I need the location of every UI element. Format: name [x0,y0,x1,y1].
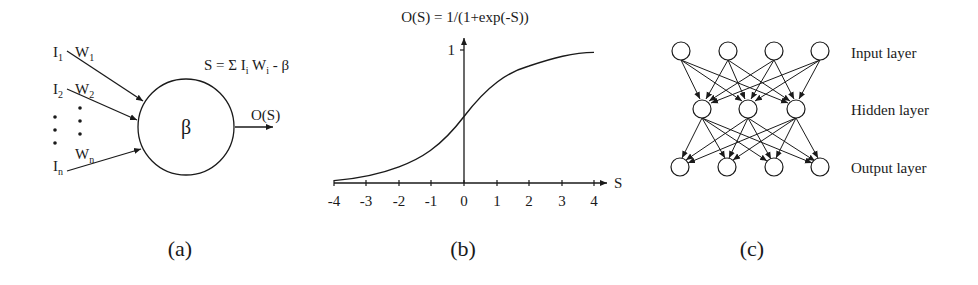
caption-b: (b) [450,236,476,261]
input-node [765,42,783,60]
x-axis-label: S [614,175,622,191]
svg-text:3: 3 [558,193,566,209]
input-node [811,42,829,60]
svg-text:2: 2 [525,193,533,209]
weight-label-n: Wn [75,146,94,165]
output-label: O(S) [251,107,280,124]
input-label-n: In [53,158,63,177]
output-node [811,158,829,176]
svg-text:-2: -2 [393,193,406,209]
chart-title: O(S) = 1/(1+exp(-S)) [401,9,529,26]
input-node [719,42,737,60]
svg-text:4: 4 [590,193,598,209]
svg-text:-3: -3 [360,193,373,209]
weight-label-1: W1 [75,44,94,63]
y-tick-label: 1 [448,42,456,58]
hidden-node [787,100,805,118]
svg-text:0: 0 [460,193,468,209]
output-layer-label: Output layer [851,160,926,176]
input-node [672,42,690,60]
sum-formula: S = Σ Ii Wi - β [204,57,289,76]
ellipsis-dots [53,106,82,145]
panel-c-network: Input layer Hidden layer Output layer (c… [671,42,929,261]
hidden-node [693,100,711,118]
caption-a: (a) [168,236,192,261]
panel-a-perceptron: I1 W1 I2 W2 In Wn β S = Σ Ii Wi - β O(S)… [53,44,289,261]
svg-text:-1: -1 [425,193,438,209]
output-node [765,158,783,176]
input-label-1: I1 [53,44,63,63]
output-node [671,158,689,176]
svg-text:1: 1 [493,193,501,209]
hidden-node [739,100,757,118]
input-layer-label: Input layer [851,45,916,61]
panel-b-sigmoid-chart: O(S) = 1/(1+exp(-S)) S 1 -4 -3 -2 -1 0 1… [328,9,623,261]
caption-c: (c) [740,236,764,261]
svg-text:-4: -4 [328,193,341,209]
output-node [718,158,736,176]
input-arrow-2 [67,89,137,120]
neuron-bias-label: β [181,116,191,139]
input-label-2: I2 [53,81,63,100]
x-tick-labels: -4 -3 -2 -1 0 1 2 3 4 [328,193,599,209]
hidden-layer-label: Hidden layer [851,102,929,118]
